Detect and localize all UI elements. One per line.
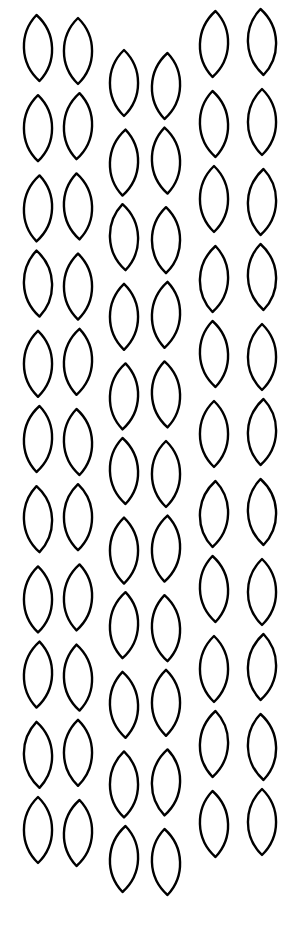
leaf-shape xyxy=(64,564,92,630)
leaf-shape xyxy=(152,516,180,582)
leaf-shape xyxy=(64,484,92,550)
leaf-shape xyxy=(24,566,52,632)
leaf-shape xyxy=(24,486,52,552)
leaf-shape xyxy=(24,406,52,472)
leaf-shape xyxy=(248,89,276,155)
leaf-shape xyxy=(110,672,138,738)
leaf-shape xyxy=(64,93,92,159)
leaf-pattern xyxy=(0,0,292,932)
leaf-shape xyxy=(248,714,276,780)
leaf-shape xyxy=(200,556,228,622)
leaf-shape xyxy=(24,95,52,161)
leaf-shape xyxy=(24,15,52,81)
leaf-shape xyxy=(110,826,138,892)
leaf-shape xyxy=(200,246,228,312)
leaf-shape xyxy=(24,251,52,317)
leaf-shape xyxy=(24,797,52,863)
leaf-shape xyxy=(248,399,276,465)
leaf-shape xyxy=(64,800,92,866)
leaf-shape xyxy=(248,634,276,700)
leaf-shape xyxy=(64,645,92,711)
leaf-shape xyxy=(200,636,228,702)
leaf-shape xyxy=(110,284,138,350)
leaf-shape xyxy=(64,409,92,475)
leaf-shape xyxy=(110,751,138,817)
leaf-shape xyxy=(110,204,138,270)
leaf-shape xyxy=(152,207,180,273)
leaf-shape xyxy=(200,791,228,857)
leaf-shape xyxy=(200,711,228,777)
leaf-shape xyxy=(200,481,228,547)
leaf-shape xyxy=(24,642,52,708)
leaf-shape xyxy=(24,331,52,397)
leaf-shape xyxy=(64,173,92,239)
leaf-shape xyxy=(64,720,92,786)
leaf-shape xyxy=(152,670,180,736)
leaf-shape xyxy=(110,518,138,584)
leaf-shape xyxy=(152,749,180,815)
leaf-shape xyxy=(248,479,276,545)
leaf-shape xyxy=(152,53,180,119)
leaf-shape xyxy=(248,244,276,310)
leaf-shape xyxy=(64,254,92,320)
leaf-shape xyxy=(248,169,276,235)
leaf-shape xyxy=(152,829,180,895)
leaf-shape xyxy=(110,592,138,658)
leaf-shape xyxy=(64,329,92,395)
leaf-shape xyxy=(248,324,276,390)
leaf-shape xyxy=(200,91,228,157)
leaf-shape xyxy=(110,50,138,116)
leaf-shape xyxy=(24,175,52,241)
leaf-shape xyxy=(152,595,180,661)
leaf-shape xyxy=(248,9,276,75)
leaf-shape xyxy=(110,130,138,196)
leaf-shape xyxy=(110,363,138,429)
leaf-shape xyxy=(248,559,276,625)
leaf-shape xyxy=(200,166,228,232)
leaf-shape xyxy=(152,361,180,427)
leaf-shape xyxy=(200,321,228,387)
leaf-shape xyxy=(152,128,180,194)
leaf-shape xyxy=(110,438,138,504)
leaf-shape xyxy=(152,282,180,348)
leaf-shape xyxy=(24,722,52,788)
leaf-shape xyxy=(200,11,228,77)
leaf-shape xyxy=(64,18,92,84)
leaf-shape xyxy=(248,789,276,855)
leaf-shape xyxy=(152,441,180,507)
leaf-shape xyxy=(200,401,228,467)
